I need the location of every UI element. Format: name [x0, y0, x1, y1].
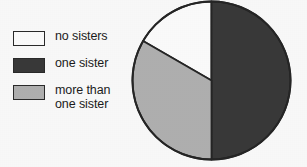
pie-slice-one-sister[interactable]	[212, 2, 291, 160]
legend-label-no-sisters: no sisters	[55, 30, 108, 44]
legend-item-more-than-one-sister[interactable]: more than one sister	[13, 84, 133, 111]
pie-chart	[131, 0, 293, 162]
legend-label-more-than-one-sister: more than one sister	[55, 84, 110, 111]
legend-swatch-one-sister	[13, 58, 45, 73]
legend-label-one-sister: one sister	[55, 57, 108, 71]
chart-legend: no sisters one sister more than one sist…	[13, 30, 133, 122]
legend-item-one-sister[interactable]: one sister	[13, 57, 133, 73]
pie-chart-svg	[131, 0, 293, 162]
legend-swatch-no-sisters	[13, 31, 45, 46]
pie-chart-figure: no sisters one sister more than one sist…	[0, 0, 307, 167]
legend-item-no-sisters[interactable]: no sisters	[13, 30, 133, 46]
legend-swatch-more-than-one-sister	[13, 85, 45, 100]
